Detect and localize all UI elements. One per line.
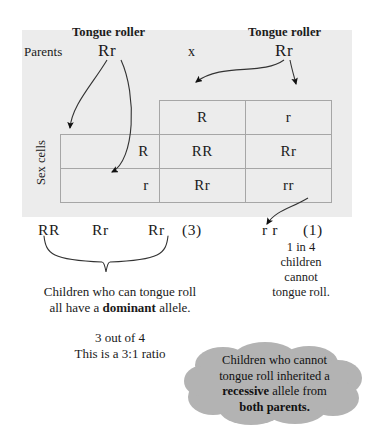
sex-cells-label: Sex cells: [34, 120, 49, 206]
dominant-caption-line2: all have a dominant allele.: [0, 300, 240, 316]
dominant-caption-line1: Children who can tongue roll: [0, 284, 240, 300]
parent-right-genotype: Rr: [275, 41, 293, 61]
cloud-line2: tongue roll inherited a: [193, 369, 356, 385]
recessive-caption-line4: tongue roll.: [248, 285, 354, 300]
punnett-cell-0-1: Rr: [245, 135, 331, 169]
dominant-caption-line2-pre: all have a: [49, 300, 102, 315]
dominant-explanation-caption: Children who can tongue roll all have a …: [0, 284, 240, 316]
cloud-callout-text: Children who cannot tongue roll inherite…: [193, 353, 356, 415]
recessive-caption-line1: 1 in 4: [248, 240, 354, 255]
recessive-explanation-caption: 1 in 4 children cannot tongue roll.: [248, 240, 354, 300]
dominant-group-brace: [30, 232, 220, 282]
punnett-col-gamete-1: r: [245, 101, 331, 135]
parent-left-genotype: Rr: [98, 41, 116, 61]
parent-left-phenotype: Tongue roller: [72, 25, 145, 40]
offspring-recessive-genotype: r r: [262, 221, 278, 239]
cloud-line1: Children who cannot: [193, 353, 356, 369]
recessive-keyword: recessive: [222, 384, 269, 398]
offspring-dominant-count: (3): [182, 221, 202, 239]
punnett-square-table: R r R RR Rr r Rr rr: [60, 100, 332, 203]
punnett-cell-1-0: Rr: [159, 169, 245, 203]
offspring-genotype-0: RR: [38, 221, 60, 239]
parents-label: Parents: [24, 44, 62, 60]
punnett-row-gamete-0: R: [61, 135, 160, 169]
punnett-corner-cell: [61, 101, 160, 135]
offspring-genotype-2: Rr: [148, 221, 165, 239]
cloud-callout: Children who cannot tongue roll inherite…: [183, 341, 366, 425]
cloud-line3-post: allele from: [269, 384, 327, 398]
table-row-header: R r: [61, 101, 332, 135]
punnett-cell-1-1: rr: [245, 169, 331, 203]
dominant-keyword: dominant: [102, 300, 155, 315]
dominant-caption-line2-post: allele.: [156, 300, 191, 315]
offspring-genotype-1: Rr: [92, 221, 109, 239]
recessive-caption-line2: children: [248, 255, 354, 270]
table-row: R RR Rr: [61, 135, 332, 169]
punnett-row-gamete-1: r: [61, 169, 160, 203]
parent-right-phenotype: Tongue roller: [248, 25, 321, 40]
both-parents-keyword: both parents.: [239, 400, 310, 414]
punnett-col-gamete-0: R: [159, 101, 245, 135]
recessive-caption-line3: cannot: [248, 270, 354, 285]
punnett-cell-0-0: RR: [159, 135, 245, 169]
cloud-line4: both parents.: [193, 400, 356, 416]
cloud-line3: recessive allele from: [193, 384, 356, 400]
cross-symbol: x: [188, 44, 195, 60]
table-row: r Rr rr: [61, 169, 332, 203]
offspring-recessive-count: (1): [303, 221, 323, 239]
